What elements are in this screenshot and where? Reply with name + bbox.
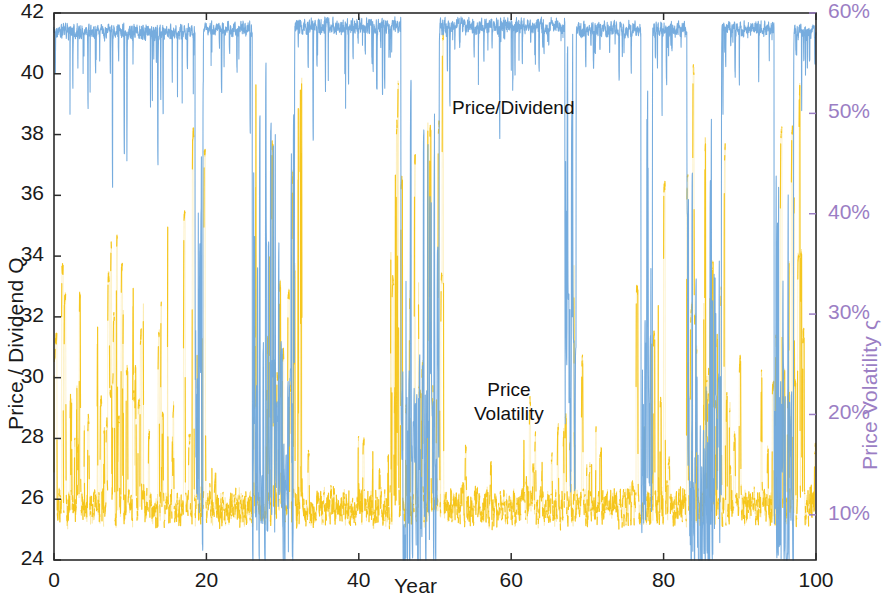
y-tick-label-right: 30%: [828, 300, 870, 324]
y-tick-label-right: 10%: [828, 501, 870, 525]
y-tick-label-left: 36: [0, 181, 44, 205]
x-tick-label: 20: [166, 568, 246, 592]
x-tick-label: 100: [776, 568, 856, 592]
chart-figure: Price / Dividend Q Price Volatility ς Ye…: [0, 0, 887, 603]
y-axis-label-left: Price / Dividend Q: [4, 257, 28, 430]
y-tick-label-left: 32: [0, 303, 44, 327]
y-tick-label-left: 40: [0, 60, 44, 84]
y-axis-label-right: Price Volatility ς: [858, 320, 882, 470]
x-tick-label: 0: [14, 568, 94, 592]
y-tick-label-right: 40%: [828, 200, 870, 224]
x-tick-label: 60: [471, 568, 551, 592]
y-tick-label-left: 24: [0, 546, 44, 570]
x-tick-label: 80: [624, 568, 704, 592]
y-tick-label-left: 26: [0, 485, 44, 509]
x-tick-label: 40: [319, 568, 399, 592]
y-tick-label-left: 34: [0, 242, 44, 266]
y-tick-label-left: 38: [0, 121, 44, 145]
y-tick-label-left: 30: [0, 364, 44, 388]
x-axis-label: Year: [394, 574, 437, 598]
y-tick-label-left: 42: [0, 0, 44, 23]
y-tick-label-left: 28: [0, 424, 44, 448]
y-tick-label-right: 20%: [828, 400, 870, 424]
y-tick-label-right: 60%: [828, 0, 870, 23]
chart-canvas: [0, 0, 887, 603]
y-tick-label-right: 50%: [828, 99, 870, 123]
